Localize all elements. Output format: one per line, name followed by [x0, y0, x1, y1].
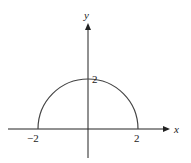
x-tick-neg2: −2: [27, 132, 39, 144]
semicircle-diagram: y x −2 2 2: [0, 0, 191, 163]
y-tick-2: 2: [92, 73, 98, 85]
y-axis-arrow-icon: [85, 23, 91, 30]
x-axis-arrow-icon: [163, 126, 170, 132]
y-axis-label: y: [83, 9, 89, 21]
x-tick-2: 2: [134, 132, 140, 144]
x-axis-label: x: [173, 123, 179, 135]
